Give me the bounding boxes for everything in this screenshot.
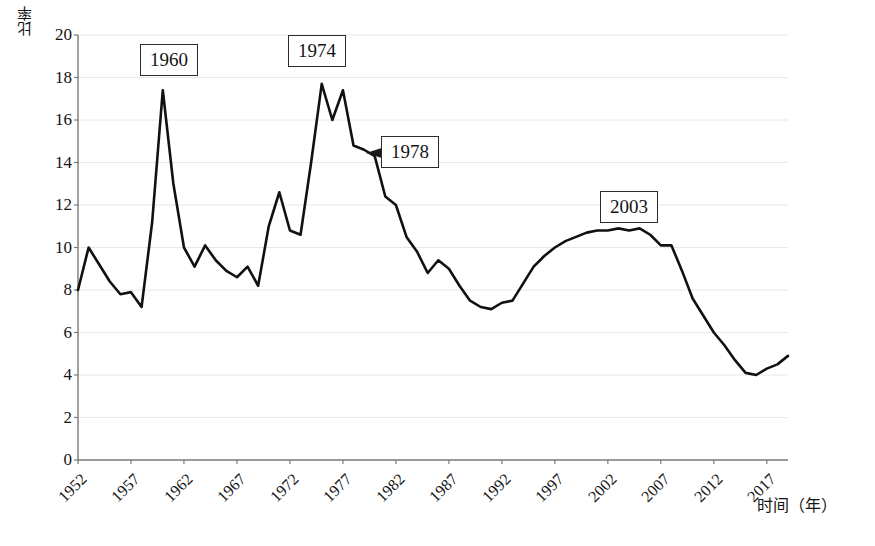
plot-area [0, 0, 875, 546]
gridlines [78, 35, 788, 418]
data-series-line [78, 84, 788, 375]
annotation-2003: 2003 [600, 191, 658, 223]
annotation-1978: 1978 [381, 136, 439, 168]
annotation-1974: 1974 [288, 35, 346, 67]
annotation-1960: 1960 [140, 44, 198, 76]
line-chart: 比率 时间（年） 02468101214161820 1952195719621… [0, 0, 875, 546]
